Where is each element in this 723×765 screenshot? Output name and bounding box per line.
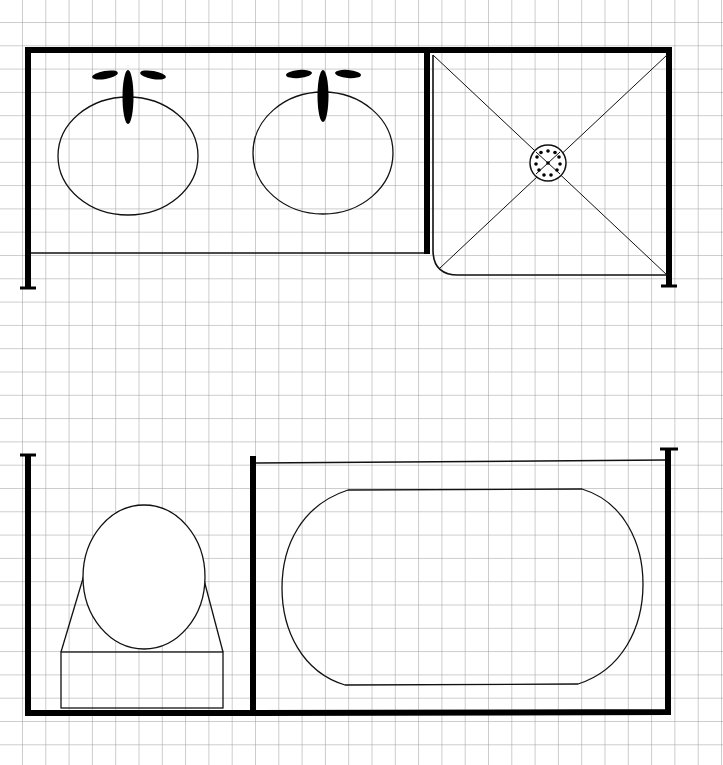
bathroom-floor-plan bbox=[0, 0, 723, 765]
graph-paper-grid bbox=[0, 0, 723, 765]
faucet-spout-icon bbox=[123, 70, 134, 124]
toilet-bowl bbox=[83, 505, 205, 649]
shower-drain-icon bbox=[530, 145, 566, 181]
faucet-spout-icon bbox=[318, 70, 329, 122]
